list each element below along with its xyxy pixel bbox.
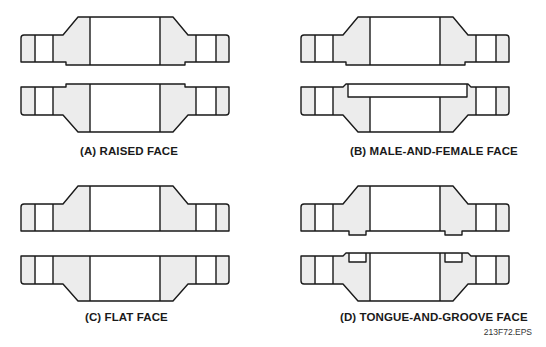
panel-d-tongue-groove-face bbox=[301, 186, 509, 301]
caption-c: (C) FLAT FACE bbox=[85, 311, 168, 323]
raised-face-bottom-flange bbox=[21, 84, 229, 132]
groove-bottom-flange bbox=[301, 253, 509, 301]
caption-b: (B) MALE-AND-FEMALE FACE bbox=[350, 145, 518, 157]
panel-c-flat-face bbox=[21, 186, 229, 301]
panel-a-raised-face bbox=[21, 17, 229, 132]
male-top-flange bbox=[301, 17, 509, 65]
female-bottom-flange bbox=[301, 84, 509, 132]
caption-a: (A) RAISED FACE bbox=[80, 145, 178, 157]
flat-face-bottom-flange bbox=[21, 256, 229, 301]
flat-face-top-flange bbox=[21, 186, 229, 231]
raised-face-top-flange bbox=[21, 17, 229, 65]
caption-d: (D) TONGUE-AND-GROOVE FACE bbox=[340, 311, 528, 323]
flange-facings-diagram bbox=[0, 0, 546, 347]
tongue-top-flange bbox=[301, 186, 509, 235]
figure-file-id: 213F72.EPS bbox=[484, 327, 532, 337]
panel-b-male-female-face bbox=[301, 17, 509, 132]
